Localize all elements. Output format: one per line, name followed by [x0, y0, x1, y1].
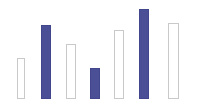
- bar-chart: [0, 0, 197, 110]
- bar-7: [168, 23, 179, 99]
- bar-4: [90, 68, 100, 99]
- bar-2: [41, 25, 51, 99]
- bar-1: [17, 58, 25, 99]
- bar-6: [139, 9, 149, 99]
- bar-5: [114, 30, 124, 99]
- plot-area: [0, 0, 197, 110]
- bar-3: [66, 44, 76, 99]
